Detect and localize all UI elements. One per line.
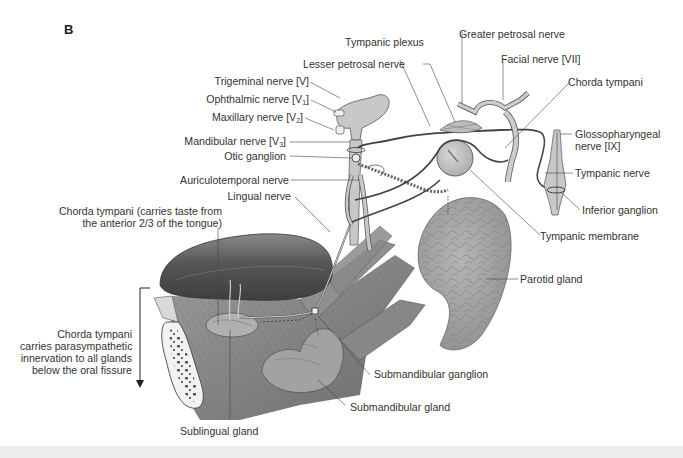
label-inferior-ganglion: Inferior ganglion	[582, 204, 658, 216]
label-chorda-tympani-upper: Chorda tympani	[568, 76, 643, 88]
label-facial-nerve: Facial nerve [VII]	[501, 53, 580, 65]
label-ophthalmic-nerve: Ophthalmic nerve [V1]	[150, 93, 309, 105]
label-sublingual-gland: Sublingual gland	[180, 425, 258, 437]
label-chorda-tympani-parasympathetic: Chorda tympani carries parasympathetic i…	[20, 328, 132, 376]
otic-ganglion-shape	[352, 154, 360, 162]
label-auriculotemporal-nerve: Auriculotemporal nerve	[150, 174, 289, 186]
oral-fissure-arrow	[136, 288, 150, 388]
label-maxillary-nerve: Maxillary nerve [V2]	[150, 111, 303, 123]
label-chorda-tympani-taste: Chorda tympani (carries taste from the a…	[40, 205, 222, 229]
label-otic-ganglion: Otic ganglion	[180, 150, 286, 162]
panel-letter: B	[64, 22, 73, 37]
auriculotemporal-nerve-path	[358, 164, 448, 192]
label-trigeminal-nerve: Trigeminal nerve [V]	[180, 75, 309, 87]
label-greater-petrosal-nerve: Greater petrosal nerve	[459, 28, 565, 40]
footer-bar	[0, 446, 683, 458]
label-glossopharyngeal-nerve: Glossopharyngeal nerve [IX]	[575, 128, 660, 152]
label-tympanic-membrane: Tympanic membrane	[540, 230, 639, 242]
glossopharyngeal-nerve-shape	[544, 130, 566, 215]
anatomy-figure: B Tympanic plexus Greater petrosal nerve…	[0, 0, 683, 458]
label-tympanic-nerve: Tympanic nerve	[575, 167, 650, 179]
label-mandibular-nerve: Mandibular nerve [V3]	[120, 135, 286, 147]
label-submandibular-ganglion: Submandibular ganglion	[374, 368, 488, 380]
label-submandibular-gland: Submandibular gland	[350, 401, 450, 413]
parotid-gland-shape	[418, 196, 511, 350]
label-tympanic-plexus: Tympanic plexus	[345, 36, 424, 48]
label-lingual-nerve: Lingual nerve	[200, 190, 291, 202]
label-parotid-gland: Parotid gland	[520, 273, 582, 285]
label-lesser-petrosal-nerve: Lesser petrosal nerve	[303, 58, 405, 70]
